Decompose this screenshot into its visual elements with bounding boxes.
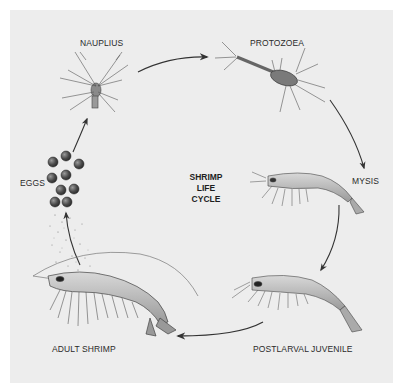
- stage-label-nauplius: NAUPLIUS: [80, 38, 123, 48]
- arrow-protozoea-to-mysis: [330, 100, 364, 168]
- eggs-cluster: [47, 151, 84, 207]
- title-line-2: LIFE: [176, 183, 236, 194]
- arrow-nauplius-to-protozoea: [138, 57, 207, 72]
- adult-shrimp-illustration: [33, 252, 198, 336]
- arrow-adult-to-eggs: [66, 213, 80, 265]
- arrow-mysis-to-postlarval: [321, 205, 339, 270]
- nauplius-illustration: [60, 52, 128, 112]
- mysis-illustration: [250, 172, 364, 214]
- diagram-title: SHRIMP LIFE CYCLE: [176, 172, 236, 205]
- title-line-3: CYCLE: [176, 194, 236, 205]
- arrow-eggs-to-nauplius: [73, 119, 87, 152]
- stage-label-adult-shrimp: ADULT SHRIMP: [52, 344, 116, 354]
- title-line-1: SHRIMP: [176, 172, 236, 183]
- postlarval-juvenile-illustration: [232, 275, 362, 332]
- stage-label-mysis: MYSIS: [352, 176, 379, 186]
- arrow-postlarval-to-adult: [178, 322, 263, 336]
- stage-label-postlarval-juvenile: POSTLARVAL JUVENILE: [253, 344, 353, 354]
- stage-label-protozoea: PROTOZOEA: [250, 38, 304, 48]
- stage-label-eggs: EGGS: [20, 178, 45, 188]
- protozoea-illustration: [215, 42, 325, 112]
- egg-spray-stipple: [50, 214, 93, 274]
